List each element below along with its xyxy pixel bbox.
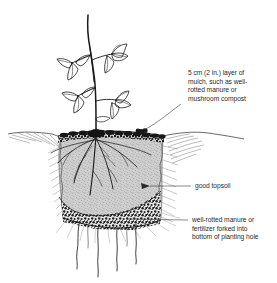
manure-label-line-1: well-rotted manure or <box>192 216 259 225</box>
topsoil-label-line-1: good topsoil <box>195 182 230 191</box>
manure-layer-label: well-rotted manure or fertilizer forked … <box>192 216 259 242</box>
planting-hole-diagram: 5 cm (2 in.) layer of mulch, such as wel… <box>0 0 277 283</box>
ground-hatching-left <box>9 133 60 148</box>
mulch-label-line-4: mushroom compost <box>188 95 247 104</box>
root-system-lower <box>77 224 137 277</box>
manure-label-line-2: fertilizer forked into <box>192 225 259 234</box>
topsoil-label: good topsoil <box>195 182 230 191</box>
mulch-layer-label: 5 cm (2 in.) layer of mulch, such as wel… <box>188 69 247 103</box>
manure-label-line-3: bottom of planting hole <box>192 233 259 242</box>
mulch-label-line-3: rotted manure or <box>188 86 247 95</box>
ground-hatching-right <box>166 134 204 163</box>
leader-line-mulch <box>144 104 181 130</box>
mulch-label-line-1: 5 cm (2 in.) layer of <box>188 69 247 78</box>
plant-illustration <box>57 15 131 137</box>
mulch-label-line-2: mulch, such as well- <box>188 78 247 87</box>
